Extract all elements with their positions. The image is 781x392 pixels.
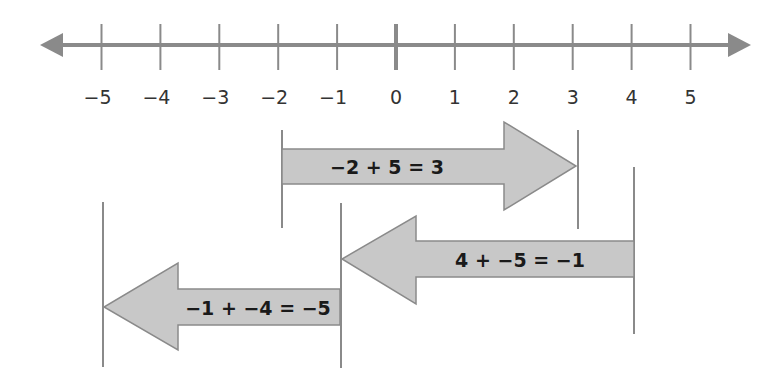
tick-label: −2 [260, 86, 288, 108]
tick-label: 3 [567, 86, 579, 108]
tick-labels: −5−4−3−2−1012345 [83, 86, 696, 108]
equation-label: −2 + 5 = 3 [330, 156, 444, 178]
tick-label: −1 [319, 86, 347, 108]
number-line-diagram: −5−4−3−2−1012345 −2 + 5 = 3 4 + −5 = −1 … [0, 0, 781, 392]
tick-label: 1 [449, 86, 461, 108]
tick-label: 4 [626, 86, 638, 108]
tick-label: 0 [390, 86, 402, 108]
equation-label: 4 + −5 = −1 [455, 249, 585, 271]
equation-label: −1 + −4 = −5 [185, 297, 331, 319]
right-arrowhead-icon [728, 33, 751, 57]
tick-label: 5 [684, 86, 696, 108]
left-arrowhead-icon [40, 33, 63, 57]
tick-label: −4 [142, 86, 170, 108]
number-line: −5−4−3−2−1012345 [40, 24, 751, 108]
addition-arrow-3: −1 + −4 = −5 [104, 263, 340, 350]
addition-arrow-2: 4 + −5 = −1 [342, 216, 634, 304]
tick-label: 2 [508, 86, 520, 108]
tick-label: −3 [201, 86, 229, 108]
tick-label: −5 [83, 86, 111, 108]
addition-arrow-1: −2 + 5 = 3 [282, 122, 576, 210]
